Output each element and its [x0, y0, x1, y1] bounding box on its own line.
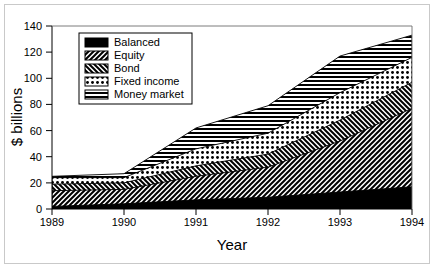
x-axis-title: Year: [217, 236, 247, 253]
x-axis-ticks: [52, 209, 412, 215]
chart-svg: 0 20 40 60 80 100 120 140 1989 1990 1991…: [0, 0, 436, 270]
y-ticklabel-0: 0: [36, 203, 42, 215]
legend-item-balanced[interactable]: Balanced: [85, 36, 160, 48]
y-ticklabel-40: 40: [30, 151, 42, 163]
x-ticklabel-1990: 1990: [112, 216, 136, 228]
y-axis-ticklabels: 0 20 40 60 80 100 120 140: [24, 20, 42, 215]
legend-swatch-bond: [85, 64, 108, 73]
x-ticklabel-1989: 1989: [40, 216, 64, 228]
y-ticklabel-100: 100: [24, 72, 42, 84]
x-ticklabel-1992: 1992: [256, 216, 280, 228]
legend-swatch-equity: [85, 51, 108, 60]
x-ticklabel-1994: 1994: [400, 216, 424, 228]
legend-item-money-market[interactable]: Money market: [85, 88, 184, 100]
x-axis-ticklabels: 1989 1990 1991 1992 1993 1994: [40, 216, 424, 228]
y-ticklabel-80: 80: [30, 98, 42, 110]
y-ticklabel-60: 60: [30, 125, 42, 137]
y-axis-ticks: [46, 26, 52, 209]
y-axis-title: $ billions: [8, 88, 25, 146]
legend-swatch-money-market: [85, 90, 108, 99]
legend-label-fixed-income: Fixed income: [114, 75, 179, 87]
y-ticklabel-140: 140: [24, 20, 42, 32]
legend-label-balanced: Balanced: [114, 36, 160, 48]
legend-item-equity[interactable]: Equity: [85, 49, 145, 61]
legend-item-fixed-income[interactable]: Fixed income: [85, 75, 179, 87]
legend-label-bond: Bond: [114, 62, 140, 74]
x-ticklabel-1991: 1991: [184, 216, 208, 228]
x-ticklabel-1993: 1993: [328, 216, 352, 228]
y-ticklabel-20: 20: [30, 177, 42, 189]
chart-legend[interactable]: Balanced Equity Bond Fixed income Money …: [79, 33, 192, 104]
chart-figure: 0 20 40 60 80 100 120 140 1989 1990 1991…: [0, 0, 436, 270]
legend-label-equity: Equity: [114, 49, 145, 61]
legend-swatch-fixed-income: [85, 77, 108, 86]
legend-label-money-market: Money market: [114, 88, 184, 100]
legend-swatch-balanced: [85, 38, 108, 47]
y-ticklabel-120: 120: [24, 46, 42, 58]
